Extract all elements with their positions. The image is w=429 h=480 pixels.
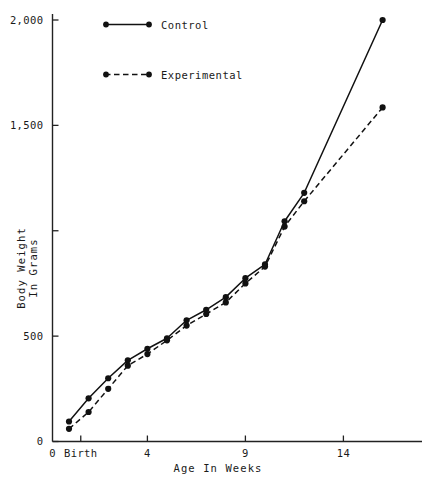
- data-point-experimental-10: [262, 263, 268, 269]
- y-tick-label-1500: 1,500: [10, 119, 44, 131]
- data-point-control-4: [144, 346, 150, 352]
- x-tick-label-4: 4: [144, 447, 151, 459]
- y-axis-title-line2: In Grams: [27, 238, 39, 297]
- x-tick-label-14: 14: [337, 447, 350, 459]
- data-point-experimental-0: [66, 426, 72, 432]
- y-axis-title-line1: Body Weight: [15, 227, 27, 309]
- legend-swatch-control-marker-right: [146, 22, 152, 28]
- legend-entry-control[interactable]: Control: [103, 19, 209, 31]
- x-axis-title: Age In Weeks: [173, 462, 262, 474]
- x-tick-label-birth: Birth: [64, 447, 98, 459]
- data-point-experimental-11: [282, 223, 288, 229]
- data-point-experimental-8: [223, 299, 229, 305]
- data-point-control-1: [86, 395, 92, 401]
- y-axis-title: Body Weight In Grams: [15, 227, 39, 309]
- data-point-experimental-9: [242, 280, 248, 286]
- legend-label-experimental: Experimental: [161, 69, 243, 81]
- data-point-control-3: [125, 357, 131, 363]
- series-line-experimental: [69, 107, 383, 428]
- data-point-experimental-5: [164, 337, 170, 343]
- legend-swatch-experimental-marker-right: [146, 72, 152, 78]
- legend: Control Experimental: [103, 19, 243, 81]
- data-point-experimental-7: [203, 311, 209, 317]
- y-tick-label-0: 0: [37, 435, 44, 447]
- series-experimental: [66, 104, 386, 432]
- data-point-experimental-16: [380, 104, 386, 110]
- data-point-control-2: [105, 375, 111, 381]
- line-chart-svg: 05001,5002,000 0Birth4914 Control Experi…: [0, 0, 429, 480]
- data-point-experimental-12: [301, 198, 307, 204]
- data-point-control-16: [380, 17, 386, 23]
- chart-figure: 05001,5002,000 0Birth4914 Control Experi…: [0, 0, 429, 480]
- legend-entry-experimental[interactable]: Experimental: [103, 69, 243, 81]
- y-tick-label-2000: 2,000: [10, 14, 44, 26]
- data-point-experimental-4: [144, 351, 150, 357]
- data-point-control-0: [66, 418, 72, 424]
- data-point-experimental-2: [105, 386, 111, 392]
- legend-swatch-control-marker-left: [103, 22, 109, 28]
- legend-label-control: Control: [161, 19, 209, 31]
- x-tick-group: 0Birth4914: [49, 436, 350, 459]
- data-point-experimental-6: [184, 322, 190, 328]
- x-tick-label-0: 0: [49, 447, 56, 459]
- legend-swatch-experimental-marker-left: [103, 72, 109, 78]
- y-tick-label-500: 500: [23, 330, 43, 342]
- data-point-control-12: [301, 190, 307, 196]
- data-point-experimental-3: [125, 363, 131, 369]
- data-point-experimental-1: [86, 409, 92, 415]
- x-tick-label-9: 9: [242, 447, 249, 459]
